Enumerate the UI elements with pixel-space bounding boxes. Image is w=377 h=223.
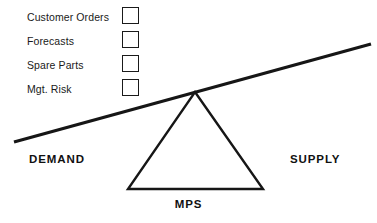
- list-item[interactable]: Forecasts: [27, 29, 142, 53]
- supply-label: SUPPLY: [290, 153, 340, 165]
- list-item[interactable]: Mgt. Risk: [27, 77, 142, 101]
- empty-checkbox[interactable]: [122, 79, 139, 96]
- seesaw-diagram: Customer Orders Forecasts Spare Parts Mg…: [0, 0, 377, 223]
- input-label: Mgt. Risk: [27, 84, 72, 95]
- demand-inputs-list: Customer Orders Forecasts Spare Parts Mg…: [27, 5, 142, 101]
- empty-checkbox[interactable]: [122, 55, 139, 72]
- demand-label: DEMAND: [29, 153, 85, 165]
- empty-checkbox[interactable]: [122, 31, 139, 48]
- input-label: Forecasts: [27, 36, 74, 47]
- list-item[interactable]: Spare Parts: [27, 53, 142, 77]
- input-label: Customer Orders: [27, 12, 109, 23]
- empty-checkbox[interactable]: [122, 7, 139, 24]
- list-item[interactable]: Customer Orders: [27, 5, 142, 29]
- input-label: Spare Parts: [27, 60, 84, 71]
- mps-label: MPS: [0, 198, 377, 210]
